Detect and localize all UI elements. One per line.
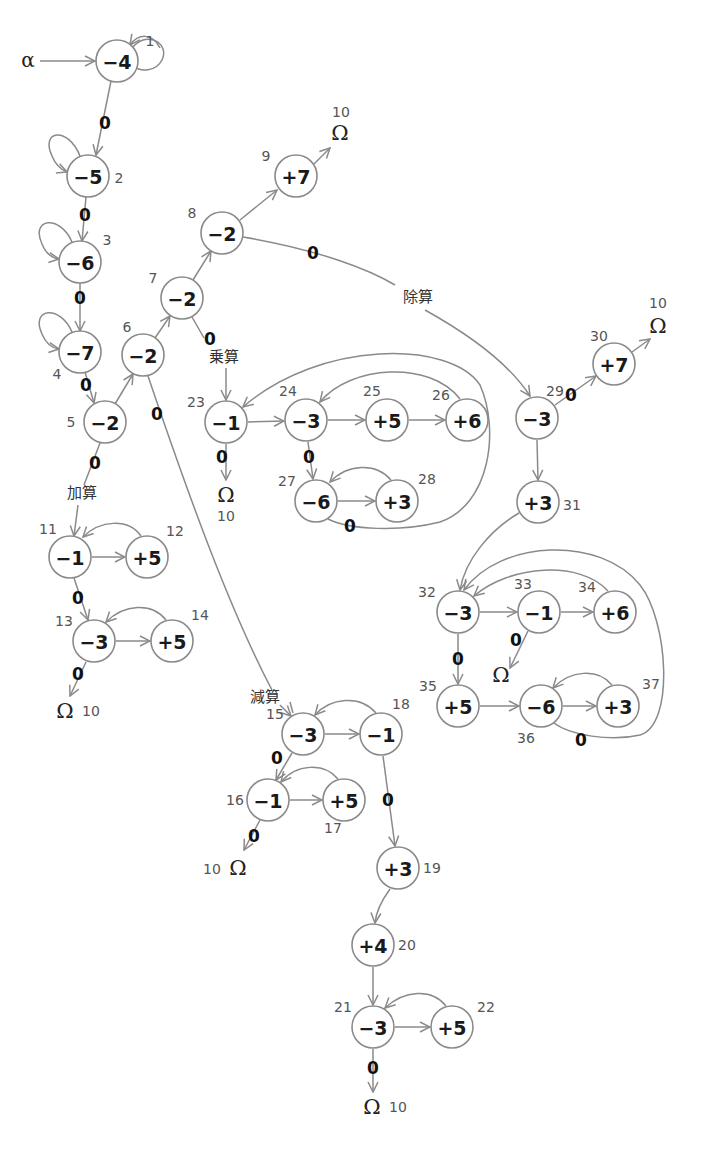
node-value: −4 <box>102 51 131 73</box>
edge-23-24 <box>248 421 284 422</box>
state-node-11: −111 <box>39 521 91 578</box>
state-node-9: +79 <box>262 148 317 197</box>
node-id-label: 3 <box>103 232 112 248</box>
node-value: −6 <box>526 696 555 718</box>
op-label-subtract: 減算 <box>250 688 280 706</box>
node-value: +7 <box>281 166 310 188</box>
node-value: +6 <box>452 410 481 432</box>
state-node-27: −627 <box>278 473 337 522</box>
edge-27-23 <box>243 354 490 529</box>
edge-label-8-29: 0 <box>307 243 319 263</box>
edge-9-omega <box>314 148 330 164</box>
node-id-label: 23 <box>187 394 205 410</box>
terminal-id-9: 10 <box>332 104 350 120</box>
node-value: −6 <box>65 252 94 274</box>
state-node-14: +514 <box>151 607 209 662</box>
terminal-omega-33: Ω <box>492 663 509 687</box>
op-label-divide: 除算 <box>403 288 433 306</box>
node-id-label: 25 <box>363 383 381 399</box>
edge-8-9 <box>240 190 277 220</box>
state-node-2: −52 <box>67 155 123 197</box>
edge-label-11-13: 0 <box>72 588 84 608</box>
terminal-omega-16: Ω <box>229 856 246 880</box>
state-node-23: −123 <box>187 394 247 443</box>
node-id-label: 34 <box>578 579 596 595</box>
state-node-26: +626 <box>432 387 488 441</box>
node-id-label: 5 <box>67 414 76 430</box>
edge-label-18-19: 0 <box>382 790 394 810</box>
state-node-5: −25 <box>67 401 126 443</box>
node-id-label: 33 <box>514 576 532 592</box>
node-value: −1 <box>524 602 553 624</box>
node-id-label: 22 <box>477 999 495 1015</box>
edge-label-5-11: 0 <box>89 453 101 473</box>
edge-label-33-omega: 0 <box>510 630 522 650</box>
node-id-label: 36 <box>517 730 535 746</box>
node-value: −2 <box>90 412 119 434</box>
node-id-label: 20 <box>398 937 416 953</box>
state-node-8: −28 <box>188 205 243 254</box>
node-id-label: 9 <box>262 148 271 164</box>
edge-label-27-23: 0 <box>344 516 356 536</box>
op-label-add: 加算 <box>67 484 97 502</box>
nodes: −41−52−63−74−25−26−27−28+79−111+512−313+… <box>39 33 660 1048</box>
node-id-label: 14 <box>191 607 209 623</box>
edge-14-13 <box>106 607 166 622</box>
node-value: −3 <box>443 602 472 624</box>
state-node-37: +337 <box>597 676 660 727</box>
node-id-label: 30 <box>590 328 608 344</box>
node-id-label: 12 <box>166 523 184 539</box>
node-id-label: 8 <box>188 205 197 221</box>
node-id-label: 37 <box>642 676 660 692</box>
state-node-22: +522 <box>431 999 495 1048</box>
edge-7-8 <box>193 251 211 280</box>
state-node-36: −636 <box>517 685 562 746</box>
state-node-31: +331 <box>517 481 581 523</box>
edge-label-3-4: 0 <box>74 288 86 308</box>
node-value: +5 <box>132 547 161 569</box>
state-node-19: +319 <box>377 847 441 889</box>
node-id-label: 32 <box>418 584 436 600</box>
state-node-34: +634 <box>578 579 636 633</box>
terminal-id-30: 10 <box>649 295 667 311</box>
state-node-32: −332 <box>418 584 479 633</box>
node-value: −1 <box>366 724 395 746</box>
node-value: +3 <box>383 858 412 880</box>
node-id-label: 15 <box>266 706 284 722</box>
state-node-17: +517 <box>323 779 365 836</box>
node-value: +3 <box>523 492 552 514</box>
edge-6-7 <box>155 316 170 338</box>
state-node-21: −321 <box>334 999 394 1048</box>
state-node-12: +512 <box>126 523 184 578</box>
node-value: −1 <box>55 547 84 569</box>
terminal-omega-30: Ω <box>649 314 666 338</box>
node-value: +6 <box>600 602 629 624</box>
node-id-label: 6 <box>123 319 132 335</box>
edge-label-36-32: 0 <box>575 730 587 750</box>
edge-label-7-23: 0 <box>204 329 216 349</box>
state-node-35: +535 <box>419 678 479 727</box>
state-node-30: +730 <box>590 328 635 385</box>
state-node-1: −41 <box>96 33 154 82</box>
node-id-label: 31 <box>563 497 581 513</box>
node-value: −2 <box>128 345 157 367</box>
node-id-label: 11 <box>39 521 57 537</box>
node-id-label: 7 <box>149 270 158 286</box>
node-value: −6 <box>301 491 330 513</box>
edge-label-21-omega: 0 <box>367 1058 379 1078</box>
edge-label-24-27: 0 <box>303 447 315 467</box>
node-id-label: 1 <box>146 33 155 49</box>
state-node-13: −313 <box>55 613 115 662</box>
node-value: −7 <box>65 342 94 364</box>
state-node-16: −116 <box>226 779 289 821</box>
node-value: +3 <box>382 491 411 513</box>
state-node-24: −324 <box>279 383 327 441</box>
terminal-id-16: 10 <box>203 861 221 877</box>
terminal-id-21: 10 <box>389 1099 407 1115</box>
node-value: −3 <box>522 408 551 430</box>
node-value: −3 <box>79 631 108 653</box>
edge-label-4-5: 0 <box>80 375 92 395</box>
node-id-label: 2 <box>115 170 124 186</box>
terminal-omega-13: Ω <box>56 699 73 723</box>
edge-5-6 <box>115 374 133 404</box>
